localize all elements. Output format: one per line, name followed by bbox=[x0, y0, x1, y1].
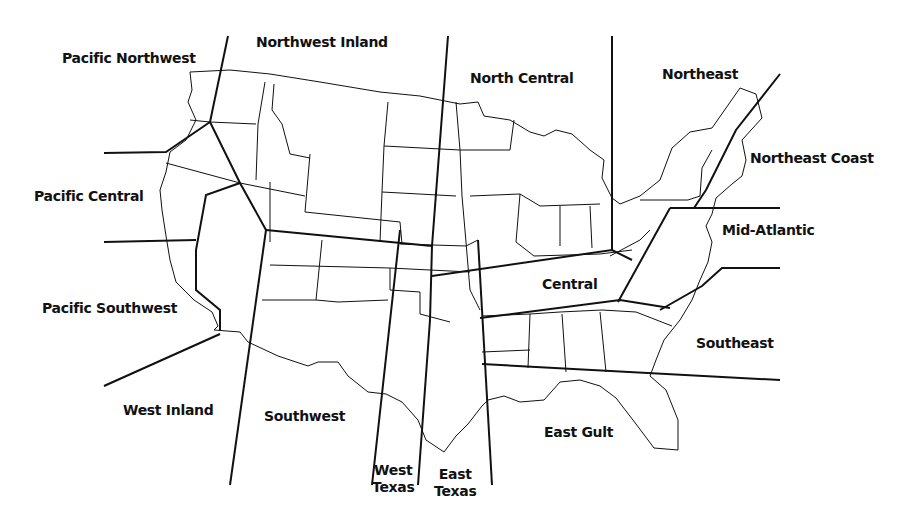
region-label-north-central: North Central bbox=[470, 70, 573, 86]
boundary-psw-westinland bbox=[104, 334, 220, 386]
region-label-northeast: Northeast bbox=[662, 66, 738, 82]
region-label-east-gult: East Gult bbox=[544, 424, 613, 440]
boundary-easttexas bbox=[478, 240, 492, 485]
region-label-central: Central bbox=[542, 276, 597, 292]
boundary-northcentral-west bbox=[418, 36, 448, 485]
region-label-northwest-inland: Northwest Inland bbox=[256, 34, 388, 50]
region-label-pacific-southwest: Pacific Southwest bbox=[42, 300, 177, 316]
region-label-pacific-northwest: Pacific Northwest bbox=[62, 50, 196, 66]
boundary-pcentral-psw bbox=[104, 240, 196, 242]
boundary-nwi-southwest bbox=[266, 230, 432, 246]
boundary-pnw-nwinland bbox=[210, 36, 228, 122]
us-outline bbox=[160, 70, 762, 452]
region-label-southeast: Southeast bbox=[696, 335, 774, 351]
region-label-southwest: Southwest bbox=[264, 408, 345, 424]
boundary-northeast-coast bbox=[694, 74, 780, 208]
region-label-east-texas: East Texas bbox=[434, 466, 477, 500]
boundary-midatlantic-bottom bbox=[660, 268, 780, 310]
region-label-west-inland: West Inland bbox=[123, 402, 213, 418]
region-label-pacific-central: Pacific Central bbox=[34, 188, 144, 204]
west-texas-line2: Texas bbox=[372, 479, 415, 496]
boundary-pcentral-nevada bbox=[196, 183, 240, 330]
state-outlines bbox=[160, 70, 762, 452]
region-label-northeast-coast: Northeast Coast bbox=[750, 150, 874, 166]
boundary-gulf bbox=[482, 364, 780, 380]
region-label-west-texas: West Texas bbox=[372, 462, 415, 496]
east-texas-line1: East bbox=[434, 466, 477, 483]
boundary-pnw-pcentral bbox=[104, 122, 210, 153]
region-label-mid-atlantic: Mid-Atlantic bbox=[722, 222, 815, 238]
boundary-central-bottom bbox=[480, 300, 670, 318]
west-texas-line1: West bbox=[372, 462, 415, 479]
boundary-west-inland-southwest bbox=[230, 230, 266, 485]
east-texas-line2: Texas bbox=[434, 483, 477, 500]
us-region-map bbox=[0, 0, 905, 517]
boundary-midatlantic-diag bbox=[618, 208, 670, 302]
